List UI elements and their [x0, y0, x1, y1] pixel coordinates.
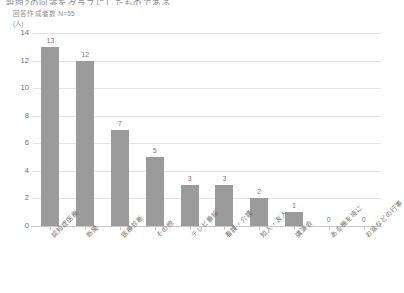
y-axis-tick-label: 4: [3, 166, 29, 175]
plot-area: [33, 33, 381, 226]
sample-size-note: 回答作成者数 N=55: [13, 8, 75, 18]
y-axis-unit-label: (人): [13, 19, 23, 28]
bar-value-label: 1: [279, 202, 309, 209]
bar: [146, 157, 164, 226]
gridline: [33, 33, 381, 34]
bar: [215, 185, 233, 226]
y-axis-tick-label: 10: [3, 83, 29, 92]
figure-title: 設問2の回答をグラフにしたものである: [6, 0, 306, 5]
y-axis-tick-label: 0: [3, 221, 29, 230]
bar: [181, 185, 199, 226]
bar: [76, 61, 94, 226]
bar-value-label: 2: [244, 188, 274, 195]
bar-value-label: 13: [35, 37, 65, 44]
bar-value-label: 7: [105, 120, 135, 127]
y-axis-tick-label: 6: [3, 138, 29, 147]
bar-value-label: 12: [70, 51, 100, 58]
y-axis-tick-label: 2: [3, 193, 29, 202]
bar-value-label: 5: [140, 147, 170, 154]
y-axis-tick-label: 14: [3, 28, 29, 37]
bar: [111, 130, 129, 227]
y-axis-tick-label: 8: [3, 111, 29, 120]
bar: [41, 47, 59, 226]
bar-value-label: 3: [209, 175, 239, 182]
y-axis-tick-label: 12: [3, 56, 29, 65]
bar-value-label: 3: [175, 175, 205, 182]
